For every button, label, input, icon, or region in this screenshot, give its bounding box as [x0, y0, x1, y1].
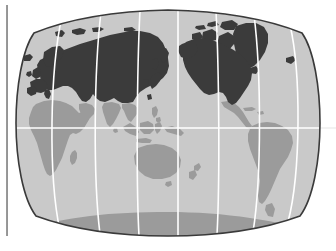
page-root	[0, 0, 336, 251]
world-map-svg	[0, 0, 336, 251]
world-map-figure	[0, 0, 336, 251]
